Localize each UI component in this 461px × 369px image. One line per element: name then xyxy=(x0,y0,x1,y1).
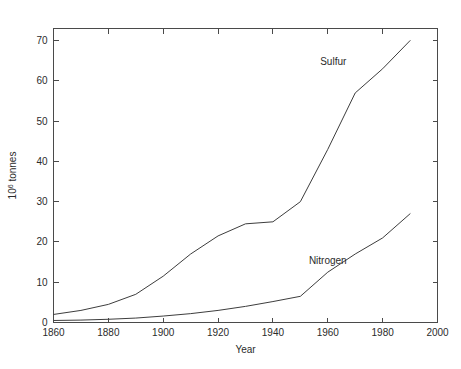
chart-tick-marks xyxy=(54,29,438,323)
x-axis-tick-label: 1960 xyxy=(317,327,340,338)
y-axis-tick-labels: 010203040506070 xyxy=(36,35,48,328)
series-label-sulfur: Sulfur xyxy=(320,56,347,67)
chart-container: 010203040506070 186018801900192019401960… xyxy=(0,0,461,369)
x-axis-tick-label: 1920 xyxy=(207,327,230,338)
y-axis-tick-label: 50 xyxy=(36,116,48,127)
y-axis-tick-label: 40 xyxy=(36,156,48,167)
y-axis-tick-label: 70 xyxy=(36,35,48,46)
y-axis-title-unit: tonnes xyxy=(7,152,18,185)
x-axis-tick-label: 2000 xyxy=(426,327,449,338)
x-axis-title: Year xyxy=(235,344,256,355)
x-axis-tick-label: 1900 xyxy=(152,327,175,338)
line-chart: 010203040506070 186018801900192019401960… xyxy=(0,0,461,369)
chart-series-lines xyxy=(54,41,411,321)
x-axis-tick-label: 1880 xyxy=(97,327,120,338)
y-axis-title-base: 10 xyxy=(7,188,18,200)
series-line-sulfur xyxy=(54,41,411,315)
y-axis-title: 106 tonnes xyxy=(7,152,19,200)
chart-series-annotations: SulfurNitrogen xyxy=(309,56,347,266)
x-axis-tick-label: 1860 xyxy=(42,327,65,338)
y-axis-tick-label: 10 xyxy=(36,277,48,288)
x-axis-tick-labels: 18601880190019201940196019802000 xyxy=(42,327,449,338)
x-axis-tick-label: 1940 xyxy=(262,327,285,338)
y-axis-tick-label: 20 xyxy=(36,236,48,247)
x-axis-tick-label: 1980 xyxy=(372,327,395,338)
y-axis-tick-label: 30 xyxy=(36,196,48,207)
plot-box-border xyxy=(54,29,438,323)
y-axis-tick-label: 60 xyxy=(36,75,48,86)
series-label-nitrogen: Nitrogen xyxy=(309,255,347,266)
chart-axes xyxy=(54,29,438,323)
